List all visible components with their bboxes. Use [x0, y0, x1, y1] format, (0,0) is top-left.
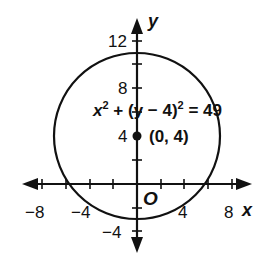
x-axis-label: x — [241, 200, 253, 220]
y-tick-label: 4 — [118, 127, 127, 146]
center-point — [133, 132, 142, 141]
y-tick-label: 12 — [108, 32, 127, 51]
x-tick-label: −4 — [71, 203, 90, 222]
y-axis-up-arrow-icon — [131, 18, 143, 34]
x-tick-label: 8 — [224, 203, 233, 222]
x-tick-label: 4 — [178, 203, 187, 222]
x-axis-left-arrow-icon — [22, 178, 38, 190]
coordinate-plane: −8 −4 4 8 12 8 4 −4 x y O x2 + (y − 4)2 … — [0, 0, 277, 264]
y-tick-label: −4 — [102, 223, 121, 242]
center-point-label: (0, 4) — [149, 127, 189, 146]
y-axis-label: y — [147, 11, 159, 31]
origin-label: O — [143, 188, 158, 209]
y-tick-label: 8 — [118, 79, 127, 98]
circle-equation: x2 + (y − 4)2 = 49 — [92, 99, 222, 120]
x-tick-label: −8 — [25, 203, 44, 222]
y-axis-down-arrow-icon — [131, 237, 143, 253]
x-axis-right-arrow-icon — [236, 178, 252, 190]
